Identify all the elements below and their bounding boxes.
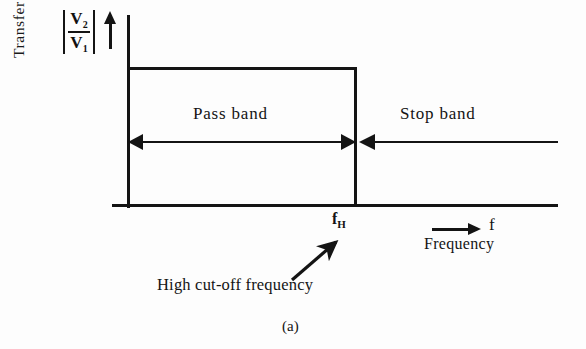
fraction-numerator: V2 bbox=[70, 9, 87, 31]
denominator-subscript: 1 bbox=[83, 43, 88, 54]
absolute-bar-right bbox=[93, 10, 95, 54]
stop-band-label: Stop band bbox=[400, 104, 476, 124]
y-axis-label: Transfer function bbox=[10, 0, 28, 58]
frequency-variable-label: f bbox=[489, 215, 495, 235]
cutoff-frequency-label: fH bbox=[332, 210, 346, 230]
stop-band-arrow-line bbox=[374, 141, 558, 143]
pass-band-arrow-right-head bbox=[341, 134, 356, 150]
frequency-axis-label: Frequency bbox=[424, 235, 494, 253]
figure-canvas: Transfer function V2 V1 Pass band Stop b… bbox=[0, 0, 586, 349]
denominator-variable: V bbox=[70, 33, 82, 52]
x-axis-line bbox=[112, 204, 558, 207]
stop-band-arrow-head bbox=[359, 134, 375, 150]
frequency-arrow-head bbox=[468, 223, 481, 235]
numerator-subscript: 2 bbox=[83, 19, 88, 30]
fraction: V2 V1 bbox=[65, 9, 93, 56]
numerator-variable: V bbox=[70, 9, 82, 28]
figure-caption: (a) bbox=[282, 318, 299, 335]
response-passband-line bbox=[128, 67, 357, 70]
cutoff-annotation-label: High cut-off frequency bbox=[157, 275, 313, 295]
y-axis-line bbox=[127, 15, 130, 208]
pass-band-label: Pass band bbox=[193, 104, 268, 124]
pass-band-arrow-line bbox=[135, 141, 351, 143]
cutoff-subscript: H bbox=[337, 218, 346, 230]
up-arrow-shaft bbox=[109, 22, 112, 49]
transfer-function-symbol: V2 V1 bbox=[63, 8, 95, 56]
fraction-denominator: V1 bbox=[70, 33, 87, 55]
frequency-arrow-line bbox=[432, 228, 470, 231]
